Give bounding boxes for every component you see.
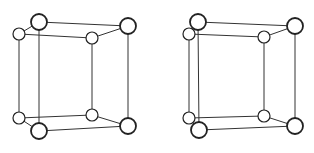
small-atom-icon: [13, 28, 25, 40]
right-unit-cell: [183, 14, 303, 138]
lattice-diagram: [0, 0, 314, 153]
small-atom-icon: [183, 112, 195, 124]
big-atom-icon: [120, 18, 136, 34]
small-atom-icon: [183, 28, 195, 40]
bond-line: [19, 115, 92, 118]
bond-line: [198, 22, 295, 26]
bond-line: [199, 126, 295, 130]
small-atom-icon: [86, 32, 98, 44]
small-atom-icon: [13, 112, 25, 124]
bond-line: [189, 116, 264, 118]
big-atom-icon: [31, 123, 47, 139]
bond-line: [19, 34, 92, 38]
big-atom-icon: [287, 118, 303, 134]
bond-line: [189, 34, 264, 37]
bond-line: [198, 22, 199, 130]
small-atom-icon: [258, 31, 270, 43]
big-atom-icon: [287, 18, 303, 34]
big-atom-icon: [31, 14, 47, 30]
small-atom-icon: [86, 109, 98, 121]
bond-line: [39, 126, 128, 131]
left-unit-cell: [13, 14, 136, 139]
big-atom-icon: [120, 118, 136, 134]
small-atom-icon: [258, 110, 270, 122]
big-atom-icon: [190, 14, 206, 30]
bond-line: [39, 22, 128, 26]
big-atom-icon: [191, 122, 207, 138]
